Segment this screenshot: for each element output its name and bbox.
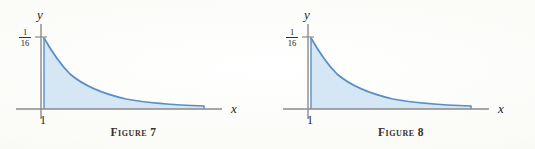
y-tick-numerator: 1 <box>23 27 27 37</box>
y-tick-numerator: 1 <box>290 27 294 37</box>
figure-caption-word: Figure <box>110 126 147 138</box>
y-tick-denominator: 16 <box>21 38 30 48</box>
x-tick-label: 1 <box>307 113 313 125</box>
figure-8-plot: y x 1 16 1 <box>267 0 535 125</box>
figure-8-caption: Figure8 <box>267 126 535 138</box>
figure-8: y x 1 16 1 Figure8 <box>267 0 535 149</box>
figure-caption-number: 7 <box>150 126 156 138</box>
x-tick-label: 1 <box>40 113 46 125</box>
y-axis-label: y <box>302 7 310 22</box>
y-axis-label: y <box>35 7 43 22</box>
figure-7: y x 1 16 1 Figure7 <box>0 0 267 149</box>
figure-caption-word: Figure <box>378 126 415 138</box>
y-tick-denominator: 16 <box>288 38 297 48</box>
figure-caption-number: 8 <box>418 126 424 138</box>
x-axis-label: x <box>497 101 504 116</box>
x-axis-label: x <box>230 101 237 116</box>
figure-7-plot: y x 1 16 1 <box>0 0 267 125</box>
figure-row: y x 1 16 1 Figure7 y x 1 16 <box>0 0 535 149</box>
figure-7-caption: Figure7 <box>0 126 267 138</box>
